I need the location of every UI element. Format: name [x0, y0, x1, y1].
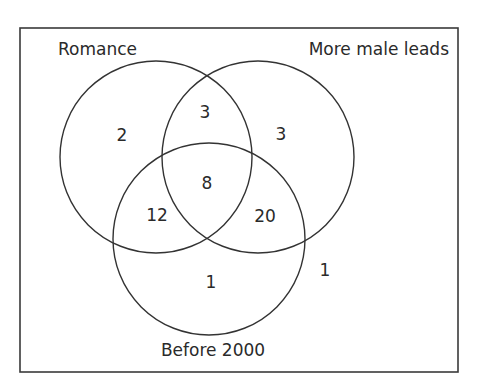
region-romance-before2000: 12: [146, 205, 168, 225]
region-romance-male: 3: [200, 102, 211, 122]
venn-diagram: Romance More male leads Before 2000 2 3 …: [0, 0, 481, 390]
region-romance-only: 2: [117, 125, 128, 145]
label-romance: Romance: [58, 39, 137, 59]
universal-set-box: [20, 28, 458, 372]
region-male-before2000: 20: [254, 206, 276, 226]
region-before2000-only: 1: [206, 272, 217, 292]
region-outside: 1: [320, 260, 331, 280]
region-all-three: 8: [202, 173, 213, 193]
label-before-2000: Before 2000: [161, 340, 265, 360]
label-more-male-leads: More male leads: [309, 39, 450, 59]
region-male-only: 3: [276, 124, 287, 144]
